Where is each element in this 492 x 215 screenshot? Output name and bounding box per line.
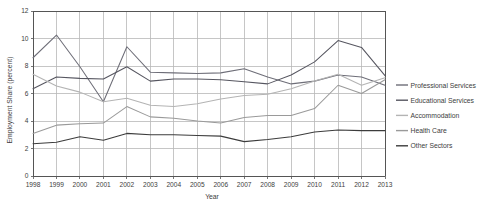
y-tick-label: 0 <box>25 172 29 179</box>
x-tick-label: 1999 <box>49 181 64 188</box>
legend-label: Other Sectors <box>411 142 454 149</box>
y-tick-label: 8 <box>25 62 29 69</box>
x-tick-label: 2001 <box>96 181 111 188</box>
y-tick-label: 10 <box>21 35 29 42</box>
line-chart: 024681012 199819992000200120022003200420… <box>0 0 492 215</box>
gridlines <box>33 11 385 176</box>
tick-marks <box>31 11 386 179</box>
x-tick-label: 2008 <box>260 181 275 188</box>
x-tick-label: 2012 <box>354 181 369 188</box>
x-tick-label: 2004 <box>166 181 181 188</box>
chart-legend: Professional ServicesEducational Service… <box>396 82 476 150</box>
x-tick-label: 2007 <box>237 181 252 188</box>
legend-item-health-care[interactable]: Health Care <box>396 127 447 134</box>
x-tick-label: 2002 <box>120 181 135 188</box>
x-tick-label: 2011 <box>331 181 346 188</box>
y-tick-label: 2 <box>25 145 29 152</box>
legend-item-educational-services[interactable]: Educational Services <box>396 97 475 104</box>
chart-figure: 024681012 199819992000200120022003200420… <box>0 0 492 215</box>
x-tick-label: 2013 <box>378 181 393 188</box>
series-line-health-care <box>33 80 385 134</box>
x-tick-label: 2000 <box>73 181 88 188</box>
legend-item-professional-services[interactable]: Professional Services <box>396 82 476 89</box>
x-tick-label: 2006 <box>213 181 228 188</box>
y-axis-title: Employment Share (percent) <box>6 57 14 144</box>
x-axis-tick-labels: 1998199920002001200220032004200520062007… <box>26 181 393 188</box>
x-tick-label: 2010 <box>307 181 322 188</box>
legend-label: Professional Services <box>411 82 477 89</box>
legend-label: Health Care <box>411 127 447 134</box>
legend-item-other-sectors[interactable]: Other Sectors <box>396 142 453 149</box>
x-tick-label: 1998 <box>26 181 41 188</box>
legend-label: Educational Services <box>411 97 475 104</box>
series-group <box>33 35 385 144</box>
y-tick-label: 6 <box>25 90 29 97</box>
x-tick-label: 2009 <box>284 181 299 188</box>
y-tick-label: 12 <box>21 7 29 14</box>
y-axis-tick-labels: 024681012 <box>21 7 29 179</box>
series-line-other-sectors <box>33 130 385 144</box>
x-tick-label: 2003 <box>143 181 158 188</box>
legend-label: Accommodation <box>411 112 460 119</box>
x-axis-title: Year <box>205 193 219 200</box>
legend-item-accommodation[interactable]: Accommodation <box>396 112 459 119</box>
x-tick-label: 2005 <box>190 181 205 188</box>
series-line-educational-services <box>33 41 385 89</box>
y-tick-label: 4 <box>25 117 29 124</box>
